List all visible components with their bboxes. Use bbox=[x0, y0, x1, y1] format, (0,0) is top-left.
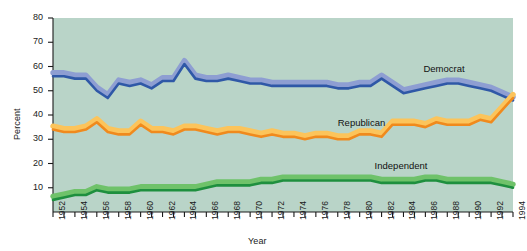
x-axis-tick-label: 1958 bbox=[123, 201, 133, 220]
x-axis-tick-label: 1970 bbox=[254, 201, 264, 220]
x-axis-tick-label: 1974 bbox=[298, 201, 308, 220]
y-axis-tick-label: 20 bbox=[21, 158, 43, 168]
y-axis-tick-label: 80 bbox=[21, 12, 43, 22]
x-axis-tick-label: 1954 bbox=[79, 201, 89, 220]
x-axis-tick-label: 1982 bbox=[386, 201, 396, 220]
x-axis-tick-label: 1968 bbox=[232, 201, 242, 220]
x-axis-tick-label: 1952 bbox=[57, 201, 67, 220]
y-axis-tick-label: 30 bbox=[21, 133, 43, 143]
x-axis-tick-label: 1960 bbox=[145, 201, 155, 220]
x-axis-title: Year bbox=[248, 236, 267, 246]
x-axis-tick-label: 1986 bbox=[429, 201, 439, 220]
x-axis-tick-label: 1988 bbox=[451, 201, 461, 220]
x-axis-tick-label: 1990 bbox=[473, 201, 483, 220]
y-axis-tick-label: 60 bbox=[21, 61, 43, 71]
series-label-democrat: Democrat bbox=[423, 63, 464, 74]
x-axis-tick-label: 1966 bbox=[210, 201, 220, 220]
series-label-independent: Independent bbox=[375, 160, 428, 171]
x-axis-tick-label: 1992 bbox=[495, 201, 505, 220]
x-axis-tick-label: 1962 bbox=[167, 201, 177, 220]
y-axis-tick-label: 40 bbox=[21, 109, 43, 119]
series-label-republican: Republican bbox=[338, 117, 386, 128]
y-axis-tick-label: 50 bbox=[21, 85, 43, 95]
x-axis-tick-label: 1984 bbox=[407, 201, 417, 220]
x-axis-tick-label: 1956 bbox=[101, 201, 111, 220]
x-axis-tick-label: 1972 bbox=[276, 201, 286, 220]
x-axis-tick-label: 1964 bbox=[188, 201, 198, 220]
x-axis-tick-label: 1994 bbox=[517, 201, 527, 220]
x-axis-tick-label: 1978 bbox=[342, 201, 352, 220]
x-axis-tick-label: 1976 bbox=[320, 201, 330, 220]
y-axis-tick-label: 70 bbox=[21, 36, 43, 46]
y-axis-tick-label: 10 bbox=[21, 182, 43, 192]
x-axis-tick-label: 1980 bbox=[364, 201, 374, 220]
